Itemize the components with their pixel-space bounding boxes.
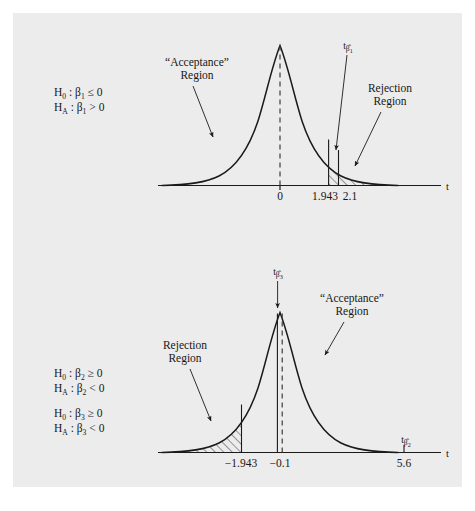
lower-axis-label: t (446, 448, 449, 459)
lower-statistic-beta3-index: 3 (280, 273, 283, 280)
lower-hypothesis-alt-beta3: HA : β3 < 0 (54, 422, 105, 437)
lower-rejection-label-line1: Rejection (163, 339, 207, 352)
upper-statistic-annotation: tβ̂1 (336, 41, 353, 150)
upper-tick-label-zero: 0 (277, 190, 283, 202)
lower-statistic-beta2-annotation: tβ̂2 (401, 435, 411, 448)
lower-h0b2-symbol: H (54, 367, 62, 379)
lower-statistic-beta3-label: tβ̂3 (273, 267, 283, 280)
lower-h0b2-colon: : (66, 367, 75, 379)
lower-h0b2-relation: ≥ 0 (85, 367, 103, 379)
lower-hypothesis-null-beta3: H0 : β3 ≥ 0 (54, 407, 103, 422)
figure-canvas: 0 1.943 2.1 t H0 : β1 ≤ 0 HA : β1 > 0 “A… (0, 0, 475, 511)
lower-hypothesis-alt-beta2: HA : β2 < 0 (54, 382, 105, 397)
upper-hypothesis-alt: HA : β1 > 0 (54, 101, 105, 116)
upper-ha-colon: : (68, 101, 77, 113)
lower-hab3-colon: : (68, 422, 77, 434)
lower-h0b3-relation: ≥ 0 (85, 407, 103, 419)
lower-rejection-label-line2: Region (168, 352, 201, 365)
upper-panel: 0 1.943 2.1 t H0 : β1 ≤ 0 HA : β1 > 0 “A… (54, 41, 449, 202)
upper-rejection-leader (355, 112, 381, 166)
figure-root: 0 1.943 2.1 t H0 : β1 ≤ 0 HA : β1 > 0 “A… (0, 0, 475, 511)
lower-statistic-beta2-index: 2 (408, 441, 411, 448)
upper-axis-label: t (446, 181, 449, 192)
upper-tick-label-critical: 1.943 (312, 190, 338, 202)
lower-statistic-beta2-label: tβ̂2 (401, 435, 411, 448)
upper-ha-relation: > 0 (86, 101, 104, 113)
upper-acceptance-annotation: “Acceptance” Region (165, 56, 229, 137)
lower-density-curve (162, 313, 398, 453)
lower-tick-label-statistic-2: 5.6 (397, 457, 412, 469)
lower-hab2-relation: < 0 (86, 382, 104, 394)
upper-statistic-label: tβ̂1 (343, 41, 353, 54)
lower-hypotheses: H0 : β2 ≥ 0 HA : β2 < 0 H0 : β3 ≥ 0 HA :… (54, 367, 105, 437)
upper-ha-symbol: H (54, 101, 62, 113)
lower-statistic-beta3-annotation: tβ̂3 (273, 267, 283, 308)
lower-hypothesis-null-beta2: H0 : β2 ≥ 0 (54, 367, 103, 382)
upper-h0-relation: ≤ 0 (85, 86, 103, 98)
upper-rejection-annotation: Rejection Region (355, 82, 412, 166)
upper-h0-symbol: H (54, 86, 62, 98)
lower-acceptance-label-line1: “Acceptance” (320, 292, 384, 305)
lower-h0b3-colon: : (66, 407, 75, 419)
lower-hab3-relation: < 0 (86, 422, 104, 434)
lower-hab2-colon: : (68, 382, 77, 394)
upper-acceptance-label-line2: Region (180, 69, 213, 82)
upper-hypothesis-null: H0 : β1 ≤ 0 (54, 86, 103, 101)
lower-tick-label-critical: −1.943 (225, 457, 258, 469)
lower-hab2-symbol: H (54, 382, 62, 394)
upper-tick-label-statistic: 2.1 (343, 190, 358, 202)
lower-rejection-annotation: Rejection Region (163, 339, 211, 421)
lower-acceptance-annotation: “Acceptance” Region (320, 292, 384, 355)
lower-acceptance-label-line2: Region (335, 305, 368, 318)
upper-statistic-index: 1 (350, 47, 353, 54)
lower-hab3-symbol: H (54, 422, 62, 434)
lower-rejection-shading (158, 313, 402, 453)
upper-statistic-leader (336, 55, 347, 150)
lower-panel: −1.943 −0.1 5.6 t H0 : β2 ≥ 0 HA : β2 < … (54, 267, 449, 469)
upper-acceptance-leader (193, 86, 213, 137)
lower-acceptance-leader (325, 322, 344, 355)
upper-rejection-label-line1: Rejection (368, 82, 412, 95)
lower-h0b3-symbol: H (54, 407, 62, 419)
upper-h0-colon: : (66, 86, 75, 98)
upper-rejection-label-line2: Region (373, 95, 406, 108)
upper-acceptance-label-line1: “Acceptance” (165, 56, 229, 69)
upper-hypotheses: H0 : β1 ≤ 0 HA : β1 > 0 (54, 86, 105, 116)
lower-tick-label-statistic-1: −0.1 (270, 457, 291, 469)
lower-rejection-leader (190, 369, 211, 421)
